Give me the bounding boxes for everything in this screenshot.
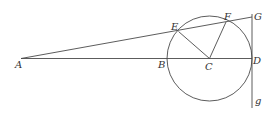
segment-CF [210,22,227,59]
label-B: B [157,59,165,70]
label-C: C [205,61,213,72]
label-g: g [255,95,261,106]
label-E: E [170,21,179,32]
segment-AG [21,17,252,59]
label-D: D [252,55,261,66]
label-A: A [14,59,22,70]
segment-CE [179,32,210,59]
label-F: F [223,11,232,22]
geometry-diagram: A B C D E F G g [0,0,275,113]
label-G: G [254,11,262,22]
